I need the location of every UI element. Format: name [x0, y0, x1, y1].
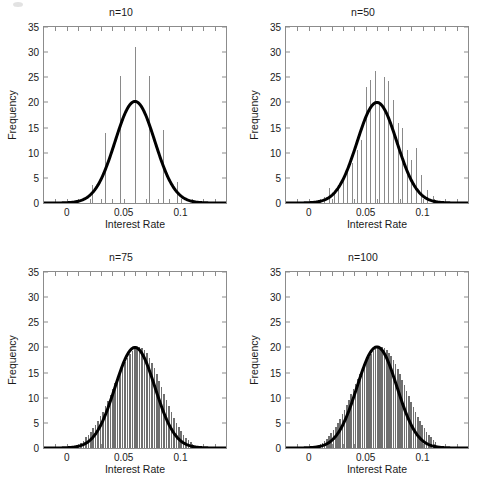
y-tick-label: 10 [270, 147, 281, 158]
plot-inner [44, 27, 226, 203]
y-tick-label: 35 [28, 267, 39, 278]
plot-area: 0510152025303500.050.1 [285, 26, 469, 204]
y-tick-label: 20 [28, 342, 39, 353]
y-tick-label: 25 [28, 72, 39, 83]
y-tick-label: 25 [270, 72, 281, 83]
normal-density-curve [286, 272, 468, 448]
x-axis-label: Interest Rate [285, 463, 469, 475]
y-axis-label: Frequency [248, 90, 260, 140]
y-tick-label: 30 [28, 292, 39, 303]
y-tick-label: 0 [33, 443, 39, 454]
x-axis-label: Interest Rate [43, 463, 227, 475]
y-axis-label: Frequency [248, 335, 260, 385]
y-tick-label: 5 [275, 417, 281, 428]
y-tick-label: 0 [275, 198, 281, 209]
normal-density-curve [286, 27, 468, 203]
y-tick-label: 0 [275, 443, 281, 454]
y-tick-label: 30 [28, 47, 39, 58]
subplot-n50: n=50 Frequency 0510152025303500.050.1 In… [242, 0, 484, 244]
y-tick-label: 25 [270, 317, 281, 328]
y-tick-label: 25 [28, 317, 39, 328]
subplot-title: n=50 [242, 6, 484, 18]
plot-area: 0510152025303500.050.1 [43, 271, 227, 449]
x-tick-label: 0.1 [174, 452, 188, 463]
y-tick-label: 15 [270, 122, 281, 133]
y-tick-label: 15 [270, 367, 281, 378]
plot-area: 0510152025303500.050.1 [285, 271, 469, 449]
x-tick-label: 0.05 [356, 452, 375, 463]
x-tick-label: 0 [306, 452, 312, 463]
normal-density-curve [44, 27, 226, 203]
normal-density-curve [44, 272, 226, 448]
x-tick-label: 0.1 [416, 452, 430, 463]
x-axis-label: Interest Rate [285, 218, 469, 230]
y-tick-label: 35 [28, 22, 39, 33]
y-tick-label: 20 [270, 97, 281, 108]
y-tick-label: 5 [33, 172, 39, 183]
x-tick-label: 0.05 [356, 207, 375, 218]
plot-inner [44, 272, 226, 448]
y-axis-label: Frequency [6, 90, 18, 140]
y-tick-label: 10 [28, 147, 39, 158]
subplot-n100: n=100 Frequency 0510152025303500.050.1 I… [242, 245, 484, 489]
y-tick-label: 5 [33, 417, 39, 428]
y-tick-label: 15 [28, 122, 39, 133]
x-tick-label: 0 [64, 207, 70, 218]
plot-inner [286, 272, 468, 448]
y-tick-label: 20 [270, 342, 281, 353]
y-tick-label: 0 [33, 198, 39, 209]
y-tick-label: 35 [270, 267, 281, 278]
x-tick-label: 0.05 [114, 207, 133, 218]
x-tick-label: 0.1 [416, 207, 430, 218]
subplot-n75: n=75 Frequency 0510152025303500.050.1 In… [0, 245, 242, 489]
y-tick-label: 10 [270, 392, 281, 403]
y-tick-label: 30 [270, 47, 281, 58]
y-tick-label: 35 [270, 22, 281, 33]
x-tick-label: 0 [64, 452, 70, 463]
x-tick-label: 0.05 [114, 452, 133, 463]
x-axis-label: Interest Rate [43, 218, 227, 230]
subplot-title: n=100 [242, 251, 484, 263]
y-tick-label: 20 [28, 97, 39, 108]
subplot-title: n=75 [0, 251, 242, 263]
subplot-title: n=10 [0, 6, 242, 18]
y-tick-label: 10 [28, 392, 39, 403]
y-tick-label: 15 [28, 367, 39, 378]
y-tick-label: 5 [275, 172, 281, 183]
plot-inner [286, 27, 468, 203]
y-tick-label: 30 [270, 292, 281, 303]
figure-histogram-grid: n=10 Frequency 0510152025303500.050.1 In… [0, 0, 484, 489]
y-axis-label: Frequency [6, 335, 18, 385]
x-tick-label: 0.1 [174, 207, 188, 218]
plot-area: 0510152025303500.050.1 [43, 26, 227, 204]
x-tick-label: 0 [306, 207, 312, 218]
subplot-n10: n=10 Frequency 0510152025303500.050.1 In… [0, 0, 242, 244]
